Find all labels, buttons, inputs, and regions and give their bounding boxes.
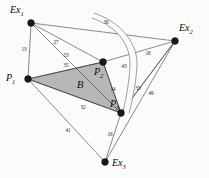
edge-ex2-p2 <box>103 41 175 62</box>
node-ex1 <box>28 20 35 27</box>
edge-weight-e-p1-p3: 32 <box>80 104 86 110</box>
region-label-b: B <box>77 78 84 90</box>
node-label-ex3: Ex3 <box>111 157 127 169</box>
node-ex2 <box>172 38 179 45</box>
node-label-p1: P1 <box>5 72 15 84</box>
edge-weight-e-p1-p2: 35 <box>63 62 69 68</box>
edge-weight-e-ex2-p3b: 33 <box>135 85 141 91</box>
node-label-ex1: Ex1 <box>9 4 24 16</box>
edge-weight-e-ex1-p2: 27 <box>53 39 59 45</box>
edge-weight-e-ex1-p1: 13 <box>21 46 27 52</box>
edge-weight-e-ex2-p2: 18 <box>145 50 151 56</box>
node-p2 <box>100 59 107 66</box>
node-p1 <box>25 76 32 83</box>
node-label-p3: P3 <box>109 98 120 110</box>
graph-canvas: 30132753351843144933324116 B Ex1Ex2Ex3P1… <box>0 0 209 178</box>
edge-ex1-p1 <box>28 23 31 79</box>
edge-weight-e-ex3-p3: 16 <box>107 131 113 137</box>
edge-weight-e-ex2-p3: 43 <box>121 63 127 69</box>
region-b-group <box>28 62 121 113</box>
node-ex3 <box>102 159 109 166</box>
node-label-ex2: Ex2 <box>178 22 194 34</box>
edge-ex3-p3 <box>105 113 121 162</box>
node-p3 <box>118 110 125 117</box>
edge-weight-e-ex1-p3: 53 <box>63 52 69 58</box>
shaded-region-b <box>28 62 121 113</box>
edge-weight-e-ex2-ex3: 49 <box>148 90 154 96</box>
edge-weight-e-p2-p3: 14 <box>110 86 116 92</box>
edge-weight-e-p1-ex3: 41 <box>65 127 71 133</box>
edge-weight-e-ex1-ex2: 30 <box>103 19 109 25</box>
graph-figure: 30132753351843144933324116 B Ex1Ex2Ex3P1… <box>0 0 209 178</box>
